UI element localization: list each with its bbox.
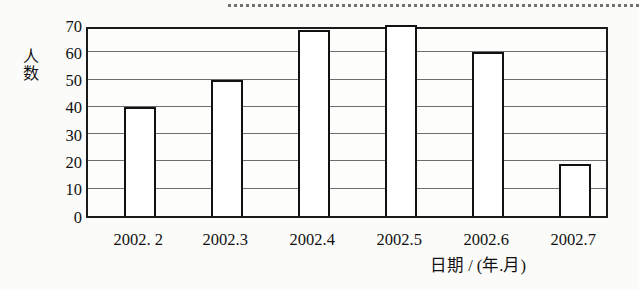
chart-figure: 人数 010203040506070 2002. 22002.32002.420…: [0, 0, 639, 290]
y-tick-label-20: 20: [52, 155, 82, 172]
bar-2002-5: [385, 25, 417, 216]
gridline-40: [88, 106, 606, 107]
x-tick-label-5: 2002.7: [551, 230, 596, 250]
bar-2002-3: [211, 80, 243, 216]
x-tick-label-0: 2002. 2: [113, 230, 163, 250]
y-tick-label-70: 70: [52, 19, 82, 36]
y-tick-label-40: 40: [52, 100, 82, 117]
x-tick-label-4: 2002.6: [464, 230, 509, 250]
plot-area: [86, 27, 608, 218]
bar-2002-6: [472, 52, 504, 216]
gridline-50: [88, 79, 606, 80]
x-tick-label-1: 2002.3: [203, 230, 248, 250]
bar-2002--2: [124, 107, 156, 216]
y-tick-label-60: 60: [52, 46, 82, 63]
x-tick-label-2: 2002.4: [290, 230, 335, 250]
y-tick-label-50: 50: [52, 73, 82, 90]
bar-2002-4: [298, 30, 330, 216]
y-tick-label-30: 30: [52, 128, 82, 145]
y-axis-title: 人数: [17, 48, 41, 82]
bar-2002-7: [559, 164, 591, 216]
y-axis-tick-labels: 010203040506070: [50, 27, 82, 218]
x-axis-title: 日期 / (年.月): [430, 252, 526, 276]
y-tick-label-0: 0: [52, 210, 82, 227]
gridline-10: [88, 188, 606, 189]
gridline-60: [88, 51, 606, 52]
gridline-30: [88, 133, 606, 134]
scan-artifact-dashed-rule: [228, 4, 639, 7]
x-tick-label-3: 2002.5: [377, 230, 422, 250]
y-tick-label-10: 10: [52, 182, 82, 199]
gridline-20: [88, 160, 606, 161]
